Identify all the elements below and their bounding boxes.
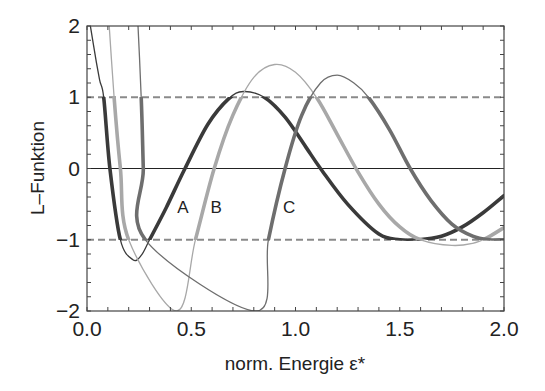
y-tick-label: 1 bbox=[68, 85, 80, 108]
x-tick-label: 1.0 bbox=[281, 317, 310, 340]
curve-label-B: B bbox=[211, 198, 222, 217]
y-tick-label: 2 bbox=[68, 14, 80, 37]
curves-thick-allowed-band bbox=[87, 5, 504, 311]
curves-thin bbox=[87, 5, 504, 311]
x-tick-labels: 0.00.51.01.52.0 bbox=[72, 317, 518, 340]
y-axis-title: L–Funktion bbox=[27, 121, 48, 215]
curve-label-C: C bbox=[283, 198, 295, 217]
curve-B-thin bbox=[108, 5, 504, 311]
y-tick-label: 0 bbox=[68, 157, 80, 180]
reference-lines bbox=[87, 97, 504, 240]
y-tick-label: −1 bbox=[56, 228, 80, 251]
x-tick-label: 0.5 bbox=[177, 317, 206, 340]
y-tick-labels: 210−1−2 bbox=[56, 14, 80, 322]
y-tick-label: −2 bbox=[56, 299, 80, 322]
l-function-chart: 0.00.51.01.52.0 210−1−2 ABC norm. Energi… bbox=[0, 0, 545, 391]
x-tick-label: 1.5 bbox=[385, 317, 414, 340]
curve-B-band bbox=[108, 5, 504, 311]
x-tick-label: 2.0 bbox=[489, 317, 518, 340]
curve-label-A: A bbox=[177, 198, 189, 217]
x-axis-title: norm. Energie ε* bbox=[225, 353, 366, 374]
